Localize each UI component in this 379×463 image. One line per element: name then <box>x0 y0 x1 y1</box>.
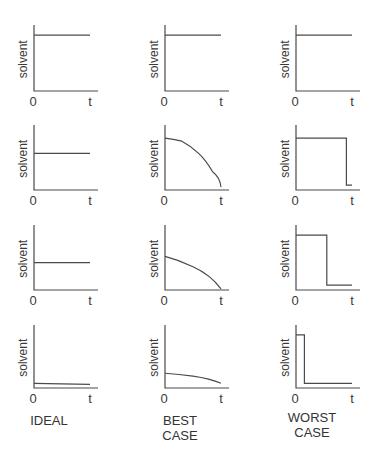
y-axis-label: solvent <box>278 338 292 377</box>
y-axis-label: solvent <box>147 239 161 278</box>
panel-3-ideal: solvent0t <box>16 225 98 308</box>
caption-ideal: IDEAL <box>14 413 84 428</box>
y-axis-label: solvent <box>16 139 30 178</box>
x-tick-t: t <box>350 193 354 208</box>
axes <box>34 325 98 388</box>
solvent-curve <box>296 235 352 285</box>
axes <box>34 125 98 190</box>
x-tick-zero: 0 <box>29 94 36 109</box>
panel-1-worst-case: solvent0t <box>278 25 360 109</box>
panel-2-best-case: solvent0t <box>147 125 229 208</box>
x-tick-zero: 0 <box>29 193 36 208</box>
caption-worst-case: WORST CASE <box>277 410 347 440</box>
axes <box>165 325 229 388</box>
solvent-curve <box>296 138 352 185</box>
x-tick-t: t <box>219 193 223 208</box>
x-tick-zero: 0 <box>29 391 36 406</box>
panel-4-worst-case: solvent0t <box>278 325 360 406</box>
x-tick-zero: 0 <box>160 391 167 406</box>
x-tick-zero: 0 <box>291 193 298 208</box>
caption-ideal-line1: IDEAL <box>14 413 84 428</box>
solvent-curve <box>296 335 352 383</box>
y-axis-label: solvent <box>147 338 161 377</box>
solvent-curve <box>165 138 221 187</box>
caption-best-case: BEST CASE <box>145 413 215 443</box>
y-axis-label: solvent <box>147 40 161 79</box>
x-tick-zero: 0 <box>29 293 36 308</box>
axes <box>34 225 98 290</box>
x-tick-t: t <box>219 94 223 109</box>
caption-worst-line1: WORST <box>277 410 347 425</box>
caption-best-line2: CASE <box>145 428 215 443</box>
x-tick-zero: 0 <box>160 94 167 109</box>
solvent-curve <box>34 383 90 384</box>
solvent-diagram-grid: solvent0tsolvent0tsolvent0tsolvent0tsolv… <box>0 0 379 463</box>
y-axis-label: solvent <box>16 40 30 79</box>
x-tick-t: t <box>350 293 354 308</box>
y-axis-label: solvent <box>147 139 161 178</box>
axes <box>296 325 360 388</box>
x-tick-zero: 0 <box>291 293 298 308</box>
panel-3-best-case: solvent0t <box>147 225 229 308</box>
y-axis-label: solvent <box>16 239 30 278</box>
y-axis-label: solvent <box>278 40 292 79</box>
x-tick-t: t <box>88 193 92 208</box>
x-tick-t: t <box>219 293 223 308</box>
x-tick-t: t <box>219 391 223 406</box>
axes <box>296 125 360 190</box>
caption-best-line1: BEST <box>145 413 215 428</box>
x-tick-zero: 0 <box>291 391 298 406</box>
panel-3-worst-case: solvent0t <box>278 225 360 308</box>
x-tick-zero: 0 <box>160 293 167 308</box>
x-tick-t: t <box>350 391 354 406</box>
x-tick-zero: 0 <box>291 94 298 109</box>
x-tick-t: t <box>88 391 92 406</box>
axes <box>165 225 229 290</box>
panel-1-best-case: solvent0t <box>147 25 229 109</box>
y-axis-label: solvent <box>278 139 292 178</box>
caption-worst-line2: CASE <box>277 425 347 440</box>
panel-4-best-case: solvent0t <box>147 325 229 406</box>
x-tick-zero: 0 <box>160 193 167 208</box>
panel-2-worst-case: solvent0t <box>278 125 360 208</box>
x-tick-t: t <box>88 94 92 109</box>
x-tick-t: t <box>88 293 92 308</box>
y-axis-label: solvent <box>278 239 292 278</box>
solvent-curve <box>165 256 221 288</box>
panel-2-ideal: solvent0t <box>16 125 98 208</box>
panel-4-ideal: solvent0t <box>16 325 98 406</box>
solvent-curve <box>165 373 221 383</box>
panel-1-ideal: solvent0t <box>16 25 98 109</box>
x-tick-t: t <box>350 94 354 109</box>
y-axis-label: solvent <box>16 338 30 377</box>
